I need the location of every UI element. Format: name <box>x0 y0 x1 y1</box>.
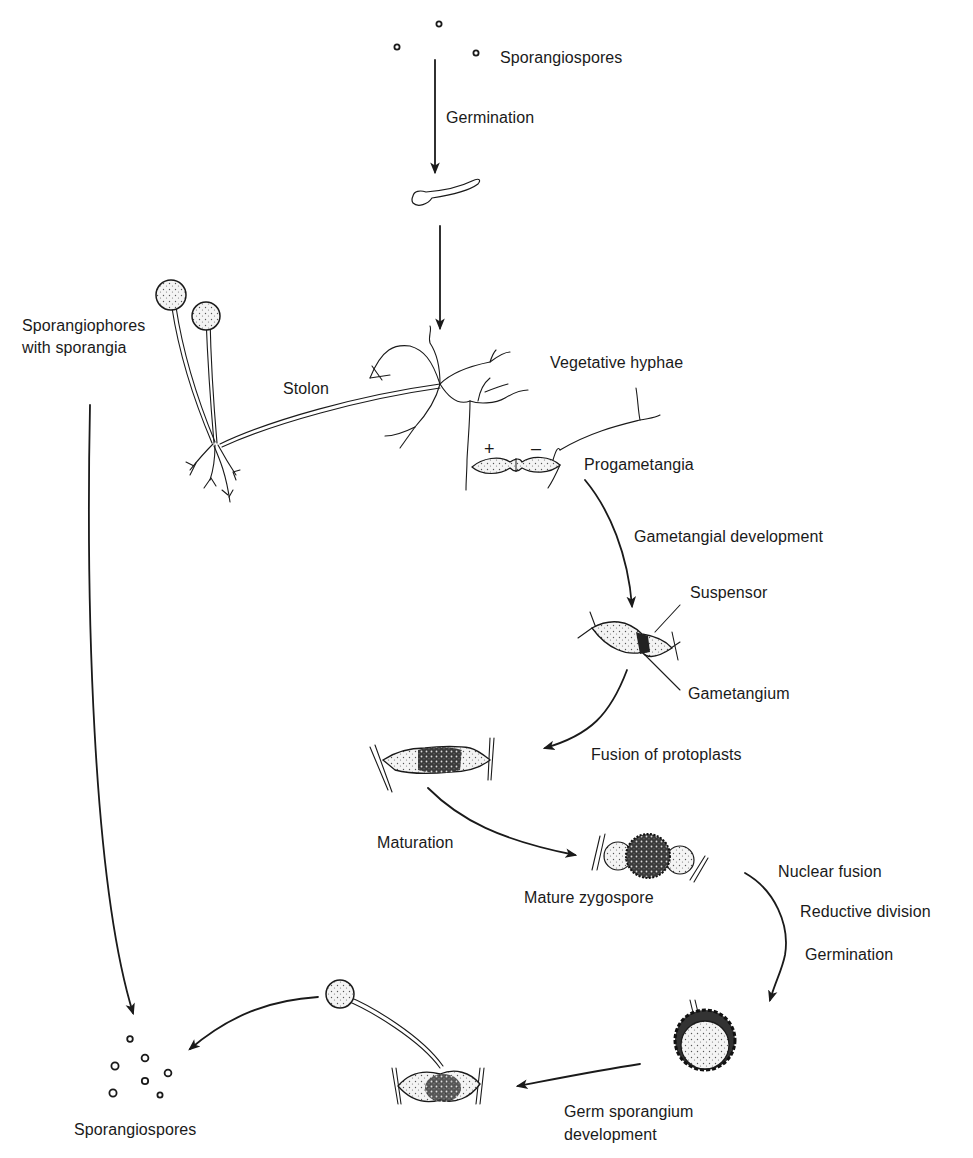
sporangiophores-to-spores-arrow <box>89 405 133 1013</box>
gametangia-icon <box>578 612 680 660</box>
label-fusion-of-protoplasts: Fusion of protoplasts <box>591 744 742 765</box>
label-germination-top: Germination <box>446 107 534 128</box>
label-stolon: Stolon <box>283 378 329 399</box>
minus-sign: – <box>531 438 541 459</box>
life-cycle-diagram: Sporangiospores Germination Sporangiopho… <box>0 0 973 1158</box>
fusion-arrow <box>545 670 627 748</box>
fused-protoplasts-icon <box>370 738 494 792</box>
plus-sign: + <box>484 439 495 460</box>
label-maturation: Maturation <box>377 832 454 853</box>
gametangial-development-arrow <box>585 480 632 606</box>
label-reductive-division: Reductive division <box>800 901 931 922</box>
germ-sporangium-arrow <box>518 1064 640 1086</box>
label-mature-zygospore: Mature zygospore <box>524 887 654 908</box>
gametangium-pointer <box>645 655 680 690</box>
germ-tube-icon <box>412 179 480 205</box>
label-nuclear-fusion: Nuclear fusion <box>778 861 882 882</box>
label-progametangia: Progametangia <box>584 454 694 475</box>
label-sporangiospores-bottom: Sporangiospores <box>74 1119 196 1140</box>
diagram-canvas <box>0 0 973 1158</box>
label-gametangial-development: Gametangial development <box>634 526 823 547</box>
sporangiospores-top-icon <box>394 21 478 55</box>
label-sporangiospores-top: Sporangiospores <box>500 47 622 68</box>
label-germ-sporangium-line2: development <box>564 1124 657 1145</box>
label-suspensor: Suspensor <box>690 582 767 603</box>
release-spores-arrow <box>190 997 318 1049</box>
label-sporangiophores-line2: with sporangia <box>22 337 127 358</box>
label-sporangiophores-line1: Sporangiophores <box>22 315 145 336</box>
label-vegetative-hyphae: Vegetative hyphae <box>550 352 683 373</box>
sporangiophores-icon <box>156 280 240 502</box>
label-gametangium: Gametangium <box>688 683 790 704</box>
sporangiospores-bottom-icon <box>109 1036 171 1097</box>
nuclear-fusion-arrow <box>745 873 786 1000</box>
label-germ-sporangium-line1: Germ sporangium <box>564 1101 694 1122</box>
label-germination-bottom: Germination <box>805 944 893 965</box>
mature-zygospore-icon <box>592 834 708 882</box>
suspensor-pointer <box>655 605 680 632</box>
germinating-zygospore-icon <box>675 1000 735 1070</box>
germ-sporangium-icon <box>326 980 484 1104</box>
